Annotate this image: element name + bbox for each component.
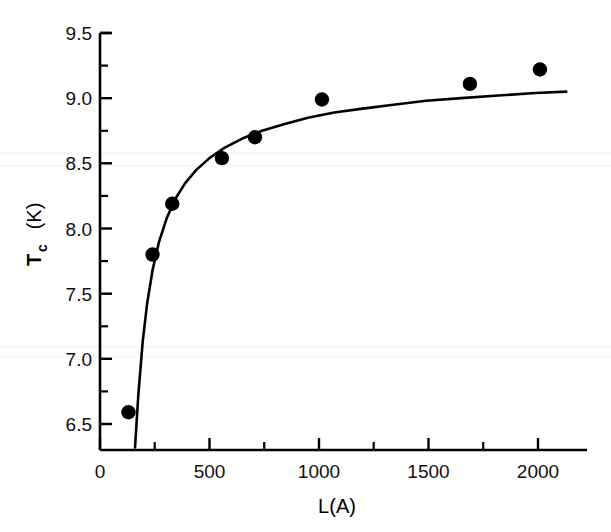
y-axis-title-main: T bbox=[23, 254, 45, 266]
plot-background bbox=[0, 0, 611, 532]
x-tick-label: 1000 bbox=[298, 461, 340, 482]
data-point bbox=[145, 247, 159, 261]
y-axis-title-unit: (K) bbox=[23, 203, 45, 230]
x-tick-label: 0 bbox=[95, 461, 106, 482]
data-point bbox=[463, 77, 477, 91]
y-tick-label: 7.0 bbox=[66, 349, 92, 370]
chart-figure: 9.5 9.0 8.5 8.0 7.5 7.0 6.5 0 500 1 bbox=[0, 0, 611, 532]
data-point bbox=[533, 62, 547, 76]
y-tick-label: 9.0 bbox=[66, 88, 92, 109]
data-point bbox=[315, 92, 329, 106]
scan-artifact-band bbox=[0, 345, 611, 348]
data-point bbox=[215, 151, 229, 165]
data-point bbox=[248, 130, 262, 144]
y-tick-label: 9.5 bbox=[66, 23, 92, 44]
x-tick-label: 2000 bbox=[517, 461, 559, 482]
x-tick-label: 500 bbox=[194, 461, 226, 482]
y-tick-label: 6.5 bbox=[66, 414, 92, 435]
y-tick-label: 8.5 bbox=[66, 153, 92, 174]
x-axis-title: L(A) bbox=[318, 495, 356, 517]
y-tick-label: 7.5 bbox=[66, 284, 92, 305]
data-point bbox=[121, 405, 135, 419]
y-axis-title-subscript: c bbox=[34, 244, 50, 252]
scatter-plot-svg: 9.5 9.0 8.5 8.0 7.5 7.0 6.5 0 500 1 bbox=[0, 0, 611, 532]
data-point bbox=[165, 197, 179, 211]
x-tick-label: 1500 bbox=[407, 461, 449, 482]
y-tick-label: 8.0 bbox=[66, 219, 92, 240]
